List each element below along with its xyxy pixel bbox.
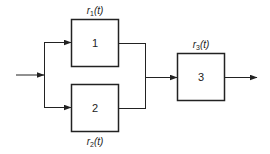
block-3-rate-label: r3(t) (193, 39, 210, 51)
block-2-rate-label: r2(t) (87, 136, 104, 148)
block-1: 1 r1(t) (72, 5, 119, 67)
block-2-label: 2 (92, 102, 98, 114)
block-1-rate-label: r1(t) (87, 5, 104, 17)
block-1-label: 1 (92, 37, 98, 49)
block-2: 2 r2(t) (72, 85, 119, 149)
block-3: 3 r3(t) (178, 39, 225, 101)
reliability-block-diagram: 1 r1(t) 2 r2(t) 3 r3(t) (0, 0, 270, 154)
block-3-label: 3 (198, 71, 204, 83)
